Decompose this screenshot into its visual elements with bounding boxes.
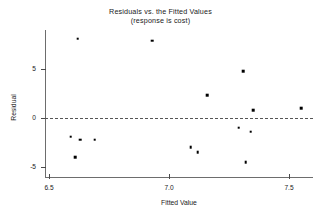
data-point <box>249 130 252 133</box>
residual-scatter-chart: Residuals vs. the Fitted Values (respons… <box>0 0 321 222</box>
x-axis-title: Fitted Value <box>45 199 313 206</box>
data-point <box>242 70 245 73</box>
data-point <box>245 161 248 164</box>
data-point <box>77 37 80 40</box>
data-points-layer <box>0 0 321 222</box>
data-point <box>252 109 255 112</box>
data-point <box>206 94 209 97</box>
data-point <box>69 135 72 138</box>
data-point <box>74 156 77 159</box>
y-axis-title: Residual <box>10 78 17 138</box>
data-point <box>237 127 240 130</box>
data-point <box>93 138 96 141</box>
data-point <box>197 151 200 154</box>
data-point <box>189 146 192 149</box>
data-point <box>79 138 82 141</box>
data-point <box>300 107 303 110</box>
data-point <box>151 39 154 42</box>
